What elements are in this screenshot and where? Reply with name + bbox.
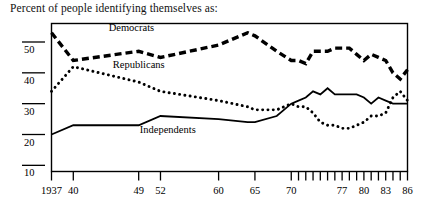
x-tick-label: 83: [380, 185, 391, 196]
x-tick-label: 40: [68, 185, 79, 196]
series-label-democrats: Democrats: [109, 22, 154, 33]
series-line-republicans: [52, 67, 408, 129]
y-tick-group: 30: [22, 104, 45, 117]
x-tick-label: 60: [213, 185, 224, 196]
y-tick-group: 40: [22, 73, 45, 86]
chart-figure: Percent of people identifying themselves…: [0, 0, 433, 207]
y-tick-label: 10: [24, 167, 35, 178]
y-tick-group: 20: [22, 135, 45, 148]
x-tick-label: 52: [155, 185, 166, 196]
x-axis-ticks: [52, 172, 408, 181]
series-layer: [52, 33, 408, 135]
x-tick-label: 49: [133, 185, 144, 196]
series-label-republicans: Republicans: [113, 59, 165, 70]
x-tick-label: 1937: [41, 185, 62, 196]
party-identification-line-chart: 1020304050 193740495260657077808386 Demo…: [0, 0, 433, 207]
series-line-democrats: [52, 33, 408, 79]
y-tick-group: 10: [22, 165, 45, 178]
y-tick-label: 20: [24, 137, 35, 148]
y-axis: 1020304050: [22, 42, 45, 178]
x-tick-label: 65: [250, 185, 261, 196]
x-axis-labels: 193740495260657077808386: [41, 185, 413, 196]
y-tick-label: 30: [24, 106, 35, 117]
x-tick-label: 86: [402, 185, 413, 196]
x-tick-label: 77: [337, 185, 348, 196]
x-tick-label: 80: [359, 185, 370, 196]
y-tick-label: 40: [24, 75, 35, 86]
y-tick-group: 50: [22, 42, 45, 55]
plot-frame: [52, 24, 408, 172]
series-label-independents: Independents: [140, 124, 196, 135]
x-tick-label: 70: [286, 185, 297, 196]
y-tick-label: 50: [24, 44, 35, 55]
